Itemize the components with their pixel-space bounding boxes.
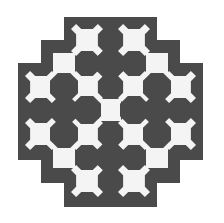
dark-octagon: [50, 73, 78, 101]
dark-octagon: [50, 120, 78, 148]
dark-octagon: [96, 50, 124, 78]
light-connector: [53, 146, 75, 168]
light-connector: [99, 99, 121, 121]
dark-octagon: [143, 73, 171, 101]
dark-octagon: [96, 143, 124, 171]
light-connector: [53, 53, 75, 75]
light-connector: [146, 53, 168, 75]
dark-octagon: [143, 120, 171, 148]
tile-pattern: [0, 0, 224, 223]
light-connector: [146, 146, 168, 168]
dark-octagon: [73, 96, 101, 124]
dark-octagon: [120, 96, 148, 124]
